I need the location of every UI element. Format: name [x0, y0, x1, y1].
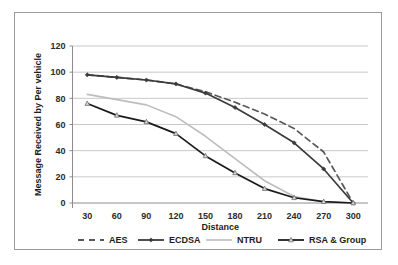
legend-label-ntru: NTRU	[237, 235, 262, 245]
series-line-ecdsa	[87, 75, 353, 203]
legend-label-aes: AES	[109, 235, 128, 245]
legend-label-ecdsa: ECDSA	[169, 235, 201, 245]
line-chart-svg: 020406080100120 306090120150180210240270…	[0, 0, 398, 265]
gridlines-group	[73, 46, 369, 203]
x-axis-title: Distance	[201, 222, 239, 232]
x-axis-tick-labels: 306090120150180210240270300	[82, 211, 360, 221]
y-tick-label: 0	[60, 198, 65, 208]
chart-figure: 020406080100120 306090120150180210240270…	[0, 0, 398, 265]
x-tick-label: 150	[198, 211, 213, 221]
y-tick-label: 80	[55, 94, 65, 104]
y-tick-label: 60	[55, 120, 65, 130]
legend-marker	[149, 238, 153, 242]
x-tick-label: 120	[168, 211, 183, 221]
y-tick-label: 20	[55, 172, 65, 182]
chart-plot-container: 020406080100120 306090120150180210240270…	[0, 0, 398, 265]
data-point-marker	[85, 73, 89, 77]
y-axis-title: Message Received by Per vehicle	[33, 53, 43, 196]
data-point-marker	[144, 78, 148, 82]
legend-label-rsa-group: RSA & Group	[309, 235, 367, 245]
y-tick-label: 120	[50, 41, 65, 51]
x-tick-label: 210	[257, 211, 272, 221]
y-axis-tick-labels: 020406080100120	[50, 41, 65, 208]
data-point-marker	[85, 101, 90, 105]
x-tick-label: 180	[228, 211, 243, 221]
x-tick-label: 30	[82, 211, 92, 221]
series-line-aes	[87, 75, 353, 203]
x-tick-label: 90	[141, 211, 151, 221]
series-line-rsa-group	[87, 104, 353, 203]
x-tick-label: 60	[112, 211, 122, 221]
data-point-marker	[174, 82, 178, 86]
series-line-ntru	[87, 94, 353, 203]
y-tick-label: 100	[50, 67, 65, 77]
x-tick-label: 270	[316, 211, 331, 221]
x-tick-label: 240	[287, 211, 302, 221]
y-tick-label: 40	[55, 146, 65, 156]
x-tick-label: 300	[346, 211, 361, 221]
chart-legend: AESECDSANTRURSA & Group	[78, 235, 367, 245]
axes-group	[70, 46, 73, 208]
data-series-group	[85, 73, 356, 205]
data-point-marker	[115, 75, 119, 79]
